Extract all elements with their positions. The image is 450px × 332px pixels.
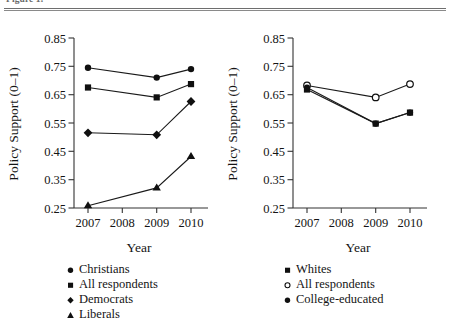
legend-label-liberals: Liberals	[79, 307, 120, 322]
svg-text:0.25: 0.25	[263, 202, 285, 216]
legend-item-whites: Whites	[283, 262, 383, 277]
left-chart-legend: Christians All respondents Democrats	[0, 262, 225, 323]
legend-item-christians: Christians	[66, 262, 158, 277]
triangle-filled-icon	[66, 310, 79, 319]
square-filled-icon	[66, 280, 79, 289]
legend-label-all-respondents: All respondents	[296, 277, 375, 292]
right-x-axis-label: Year	[346, 240, 371, 255]
svg-text:2010: 2010	[398, 216, 423, 230]
left-y-ticks	[69, 38, 75, 208]
diamond-filled-icon	[66, 295, 79, 304]
svg-text:0.85: 0.85	[44, 32, 66, 46]
chart-panel-right: Policy Support (0–1) 0.85 0.75 0.65 0.55…	[225, 14, 450, 314]
legend-label-all-respondents: All respondents	[79, 277, 158, 292]
svg-text:0.55: 0.55	[263, 117, 285, 131]
right-series-whites	[304, 86, 413, 126]
right-y-ticks	[288, 38, 294, 208]
svg-text:2009: 2009	[363, 216, 388, 230]
right-y-axis-label: Policy Support (0–1)	[225, 67, 240, 180]
legend-label-democrats: Democrats	[79, 292, 133, 307]
figure-caption: Figure 1.	[6, 0, 43, 4]
svg-text:2007: 2007	[295, 216, 320, 230]
right-chart-legend: Whites All respondents College-educated	[225, 262, 450, 308]
right-series-college-educated	[304, 84, 413, 126]
svg-text:0.45: 0.45	[263, 145, 285, 159]
left-x-axis-label: Year	[127, 240, 152, 255]
caption-rule-bottom	[4, 10, 446, 11]
legend-item-democrats: Democrats	[66, 292, 158, 307]
square-filled-icon	[283, 265, 296, 274]
svg-text:0.25: 0.25	[44, 202, 66, 216]
circle-filled-icon	[66, 265, 79, 274]
svg-text:2010: 2010	[179, 216, 204, 230]
svg-text:2008: 2008	[329, 216, 354, 230]
left-series-liberals	[84, 152, 195, 208]
figure-root: Figure 1. Policy Support (0–1) 0.85 0.75…	[0, 0, 450, 332]
right-series-all-respondents	[304, 81, 414, 101]
svg-text:2007: 2007	[76, 216, 101, 230]
circle-open-icon	[283, 280, 296, 289]
left-y-axis-label: Policy Support (0–1)	[6, 67, 21, 180]
caption-rule-top	[4, 8, 446, 9]
svg-text:0.45: 0.45	[44, 145, 66, 159]
left-chart-svg: Policy Support (0–1) 0.85 0.75 0.65 0.55…	[0, 14, 225, 260]
left-y-tick-labels: 0.85 0.75 0.65 0.55 0.45 0.35 0.25	[44, 32, 66, 216]
left-series-democrats	[84, 97, 196, 139]
chart-panel-left: Policy Support (0–1) 0.85 0.75 0.65 0.55…	[0, 14, 225, 314]
left-x-ticks	[88, 208, 191, 213]
svg-text:2009: 2009	[144, 216, 169, 230]
legend-item-college-educated: College-educated	[283, 292, 383, 307]
svg-text:0.55: 0.55	[44, 117, 66, 131]
svg-text:0.85: 0.85	[263, 32, 285, 46]
right-x-tick-labels: 2007 2008 2009 2010	[295, 216, 423, 230]
left-series-christians	[85, 65, 194, 81]
left-x-tick-labels: 2007 2008 2009 2010	[76, 216, 204, 230]
svg-text:0.75: 0.75	[44, 60, 66, 74]
legend-item-all-respondents: All respondents	[66, 277, 158, 292]
svg-text:2008: 2008	[110, 216, 135, 230]
legend-label-college-educated: College-educated	[296, 292, 383, 307]
svg-text:0.65: 0.65	[263, 88, 285, 102]
legend-label-christians: Christians	[79, 262, 130, 277]
svg-text:0.75: 0.75	[263, 60, 285, 74]
legend-label-whites: Whites	[296, 262, 331, 277]
left-series-all-respondents	[85, 81, 194, 101]
right-y-tick-labels: 0.85 0.75 0.65 0.55 0.45 0.35 0.25	[263, 32, 285, 216]
legend-item-all-respondents: All respondents	[283, 277, 383, 292]
svg-text:0.35: 0.35	[44, 173, 66, 187]
circle-filled-icon	[283, 295, 296, 304]
svg-text:0.65: 0.65	[44, 88, 66, 102]
svg-text:0.35: 0.35	[263, 173, 285, 187]
right-x-ticks	[307, 208, 410, 213]
right-chart-svg: Policy Support (0–1) 0.85 0.75 0.65 0.55…	[225, 14, 450, 260]
legend-item-liberals: Liberals	[66, 307, 158, 322]
